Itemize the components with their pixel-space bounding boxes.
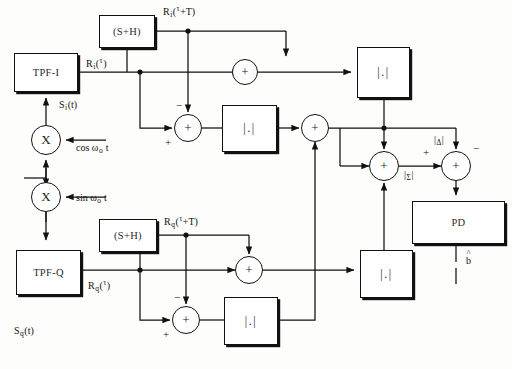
block-abs-i-difference[interactable]: |.| (222, 105, 277, 152)
block-abs-i-sum-label: |.| (377, 65, 390, 80)
label-s-i-t-base: S (59, 99, 65, 110)
summer-sigma-label: + (380, 158, 387, 174)
label-sin-sub: o (97, 196, 102, 205)
summer-q-difference-label: + (182, 312, 189, 328)
summer-i-difference-label: + (184, 120, 191, 136)
block-tpf-i-label: TPF-I (33, 67, 60, 78)
block-sample-hold-q-label: (S+H) (114, 230, 142, 241)
summer-compare-label: + (452, 158, 459, 174)
block-diagram-canvas: TPF-I (S+H) |.| |.| TPF-Q (S+H) |.| |.| … (0, 0, 512, 369)
block-abs-q-sum-label: |.| (380, 267, 393, 282)
block-pd-label: PD (451, 217, 465, 228)
label-r-i-tau-plus-t: Ri(τ+T) (163, 5, 195, 19)
label-r-q-tau: Rq(τ) (88, 279, 110, 293)
summer-compare[interactable]: + (441, 151, 471, 181)
label-sin-tail: t (104, 192, 107, 203)
label-s-i-t: Si(t) (59, 100, 77, 112)
label-r-i-tau-plus-t-tail: +T) (180, 6, 195, 17)
label-cos-base: cos (76, 142, 89, 153)
block-sample-hold-i-label: (S+H) (113, 26, 141, 37)
label-cos-local-oscillator: cos ωo t (76, 143, 108, 155)
label-sin-base: sin (76, 192, 88, 203)
sign-plus-summer-q-difference: + (163, 329, 169, 340)
block-tpf-q-label: TPF-Q (33, 267, 64, 278)
label-r-q-tau-tail: ) (107, 280, 110, 291)
summer-middle-label: + (311, 120, 318, 136)
label-sin-omega: ω (90, 192, 97, 203)
label-r-i-tau-plus-t-base: R (163, 6, 170, 17)
block-abs-q-difference[interactable]: |.| (224, 297, 278, 345)
block-tpf-i[interactable]: TPF-I (14, 53, 78, 92)
multiplier-q-label: X (41, 189, 50, 205)
label-cos-tail: t (106, 142, 109, 153)
label-s-q-t-tail: (t) (24, 325, 33, 336)
block-pd[interactable]: PD (412, 201, 505, 244)
label-r-i-tau-base: R (86, 58, 93, 69)
block-sample-hold-i[interactable]: (S+H) (99, 15, 155, 48)
summer-q-difference[interactable]: + (172, 306, 200, 334)
label-r-i-tau-tail: ) (103, 58, 106, 69)
block-sample-hold-q[interactable]: (S+H) (99, 219, 157, 252)
block-abs-q-sum[interactable]: |.| (360, 250, 413, 298)
block-abs-q-difference-label: |.| (245, 314, 258, 329)
label-b-hat-base: b (466, 256, 471, 266)
multiplier-i[interactable]: X (31, 125, 61, 155)
label-r-i-tau: Ri(τ) (86, 57, 106, 71)
label-cos-sub: o (98, 146, 103, 155)
label-s-i-t-tail: (t) (68, 99, 77, 110)
label-abs-sigma-close: | (411, 169, 413, 180)
sign-minus-summer-compare: − (473, 143, 479, 154)
sign-minus-summer-q-difference: − (174, 292, 180, 303)
sign-plus-summer-i-difference: + (165, 137, 171, 148)
label-abs-sigma: |Σ| (404, 170, 413, 182)
label-r-q-tau-base: R (88, 280, 95, 291)
block-abs-i-difference-label: |.| (243, 121, 256, 136)
label-s-q-t: Sq(t) (14, 326, 34, 338)
label-s-q-t-base: S (14, 325, 20, 336)
multiplier-q[interactable]: X (31, 182, 61, 212)
label-sin-local-oscillator: sin ωo t (76, 193, 107, 205)
sign-minus-summer-i-difference: − (176, 100, 182, 111)
summer-i-difference[interactable]: + (174, 114, 202, 142)
summer-q-top[interactable]: + (235, 256, 263, 284)
label-r-q-tau-plus-t: Rq(τ+T) (164, 215, 198, 229)
label-b-hat: ˄ b (466, 250, 471, 266)
summer-i-top-label: + (241, 64, 248, 80)
multiplier-i-label: X (41, 132, 50, 148)
summer-q-top-label: + (245, 262, 252, 278)
summer-middle[interactable]: + (301, 114, 329, 142)
label-r-q-tau-plus-t-base: R (164, 216, 171, 227)
label-abs-delta-close: | (442, 134, 444, 145)
block-abs-i-sum[interactable]: |.| (357, 47, 410, 98)
label-abs-delta: |Δ| (434, 135, 444, 147)
block-tpf-q[interactable]: TPF-Q (16, 250, 81, 295)
summer-i-top[interactable]: + (232, 59, 258, 85)
summer-sigma[interactable]: + (369, 151, 399, 181)
label-r-q-tau-plus-t-tail: +T) (183, 216, 198, 227)
sign-plus-summer-compare: + (423, 147, 429, 158)
